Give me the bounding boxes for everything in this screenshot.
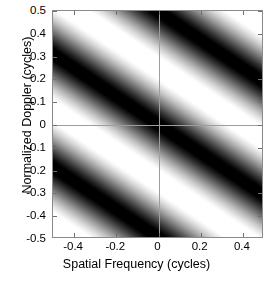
- y-tick-right-9: [258, 216, 262, 217]
- y-tick-left-0: [53, 11, 57, 12]
- x-tick-bottom-1: [116, 233, 117, 237]
- x-tick-bottom-0: [74, 233, 75, 237]
- y-tick-left-9: [53, 216, 57, 217]
- figure-container: -0.4-0.200.20.4 0.50.40.30.20.10-0.1-0.2…: [0, 0, 273, 281]
- x-tick-label-1: -0.2: [95, 240, 135, 252]
- y-tick-right-6: [258, 148, 262, 149]
- y-tick-right-4: [258, 102, 262, 103]
- y-tick-right-2: [258, 57, 262, 58]
- y-tick-left-4: [53, 102, 57, 103]
- x-tick-label-0: -0.4: [53, 240, 93, 252]
- y-tick-left-2: [53, 57, 57, 58]
- y-tick-left-7: [53, 171, 57, 172]
- y-tick-label-10: -0.5: [16, 232, 46, 244]
- x-tick-top-0: [74, 11, 75, 15]
- x-tick-top-2: [159, 11, 160, 15]
- y-tick-left-3: [53, 79, 57, 80]
- y-tick-label-0: 0.5: [16, 4, 46, 16]
- x-tick-bottom-2: [159, 233, 160, 237]
- y-axis-title: Normalized Doppler (cycles): [20, 20, 34, 210]
- y-tick-right-7: [258, 171, 262, 172]
- x-tick-top-1: [116, 11, 117, 15]
- y-tick-left-1: [53, 34, 57, 35]
- y-tick-right-8: [258, 193, 262, 194]
- x-axis-title: Spatial Frequency (cycles): [0, 257, 273, 271]
- x-tick-bottom-4: [243, 233, 244, 237]
- heatmap-canvas: [53, 11, 262, 237]
- y-tick-label-9: -0.4: [16, 209, 46, 221]
- x-tick-label-3: 0.2: [180, 240, 220, 252]
- y-tick-right-0: [258, 11, 262, 12]
- y-tick-left-5: [53, 125, 57, 126]
- y-tick-right-3: [258, 79, 262, 80]
- y-tick-left-6: [53, 148, 57, 149]
- plot-area: [52, 10, 263, 238]
- y-tick-right-5: [258, 125, 262, 126]
- y-tick-left-8: [53, 193, 57, 194]
- x-tick-bottom-3: [201, 233, 202, 237]
- x-tick-top-3: [201, 11, 202, 15]
- x-tick-top-4: [243, 11, 244, 15]
- x-tick-label-4: 0.4: [222, 240, 262, 252]
- y-tick-right-1: [258, 34, 262, 35]
- x-tick-label-2: 0: [138, 240, 178, 252]
